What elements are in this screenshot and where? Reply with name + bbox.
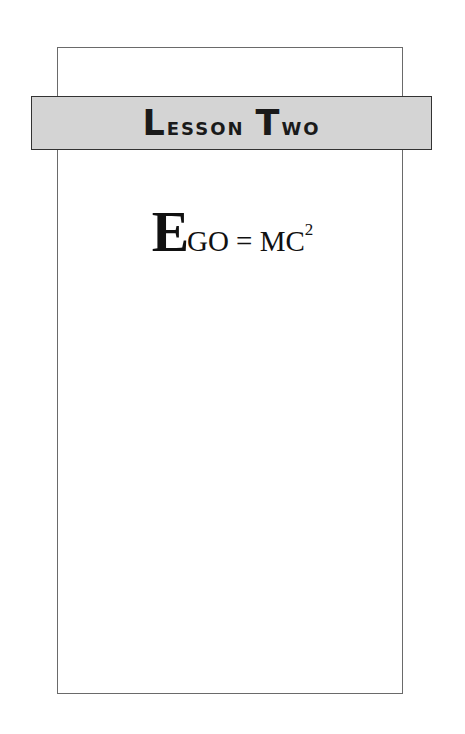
lesson-banner: Lesson Two (31, 96, 432, 150)
equation-body: GO = MC (187, 225, 305, 257)
chapter-heading-equation: EGO = MC2 (0, 200, 465, 264)
lesson-title: Lesson Two (142, 103, 320, 143)
title-initial-1: L (142, 103, 166, 143)
title-word-2: wo (281, 111, 320, 141)
equation-superscript: 2 (305, 220, 314, 239)
title-word-1: esson (167, 111, 245, 141)
drop-cap-letter: E (152, 201, 187, 263)
title-initial-2: T (256, 103, 282, 143)
